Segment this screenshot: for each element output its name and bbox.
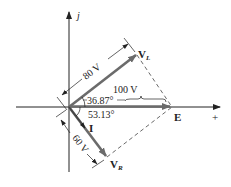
vl-magnitude-label: 80 V bbox=[80, 60, 103, 81]
e-magnitude-label: 100 V bbox=[113, 84, 138, 95]
vl-label: VL bbox=[138, 48, 150, 62]
i-label: I bbox=[89, 122, 93, 134]
vl-dimension-tick-origin bbox=[57, 97, 67, 110]
vr-label: VR bbox=[110, 158, 123, 172]
vl-dimension-line-a bbox=[62, 79, 82, 95]
dashed-vr-to-e bbox=[107, 107, 172, 157]
phasor-i bbox=[69, 107, 85, 128]
phasor-diagram: j + 80 V 60 V 36.87° 53.13° 100 V VL E V… bbox=[0, 0, 231, 187]
angle-upper-label: 36.87° bbox=[87, 95, 114, 106]
angle-arc-lower bbox=[76, 107, 80, 116]
real-axis-label: + bbox=[212, 111, 218, 123]
vl-dimension-tick-tip bbox=[124, 38, 135, 52]
e-magnitude-brace bbox=[125, 96, 166, 102]
angle-lower-label: 53.13° bbox=[88, 109, 115, 120]
e-label: E bbox=[174, 111, 181, 123]
vr-dimension-tick-origin bbox=[56, 110, 66, 117]
vl-dimension-line-b bbox=[108, 44, 128, 59]
vr-dimension-line-b bbox=[87, 154, 97, 164]
vr-magnitude-label: 60 V bbox=[70, 132, 91, 155]
imaginary-axis-label: j bbox=[75, 10, 80, 21]
